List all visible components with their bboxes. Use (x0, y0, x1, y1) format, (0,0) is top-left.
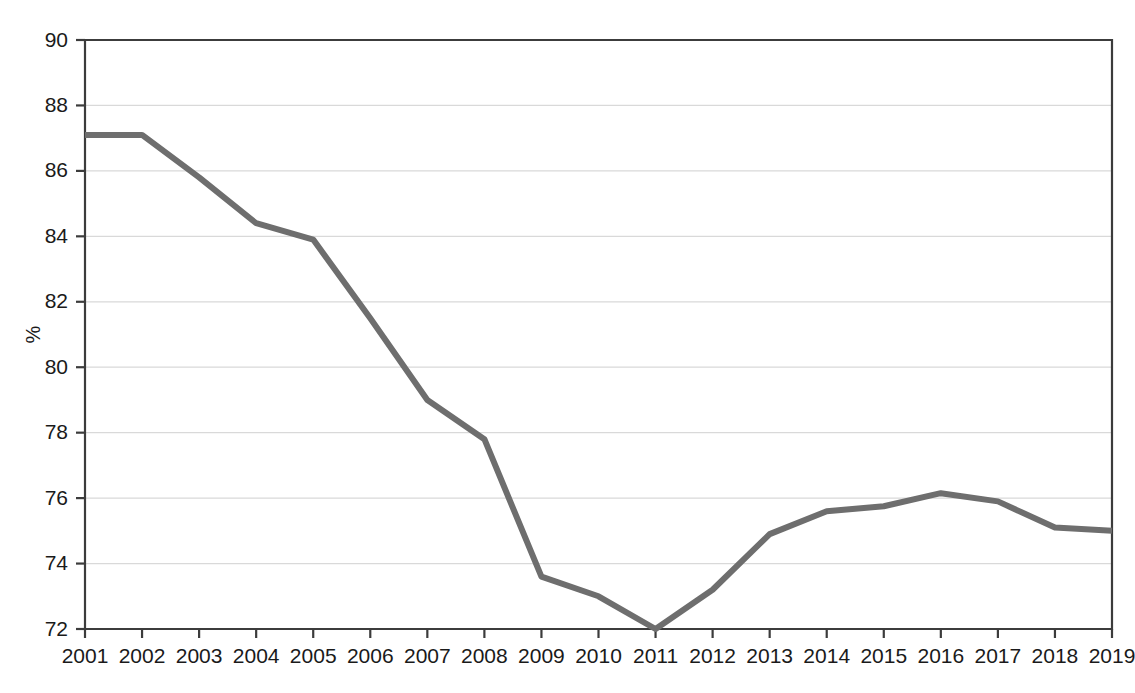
y-tick-label: 88 (45, 93, 68, 116)
y-tick-label: 90 (45, 28, 68, 51)
gridlines (85, 40, 1112, 564)
x-tick-label: 2008 (461, 644, 508, 667)
plot-frame (85, 40, 1112, 629)
y-tick-label: 78 (45, 420, 68, 443)
y-tick-label: 76 (45, 486, 68, 509)
x-tick-label: 2013 (746, 644, 793, 667)
y-tick-label: 80 (45, 355, 68, 378)
x-axis (85, 629, 1112, 638)
x-tick-label: 2007 (404, 644, 451, 667)
x-tick-label: 2006 (347, 644, 394, 667)
y-tick-label: 74 (45, 551, 69, 574)
x-tick-label: 2018 (1032, 644, 1079, 667)
chart-canvas: 72747678808284868890 2001200220032004200… (0, 0, 1135, 693)
x-tick-label: 2004 (233, 644, 280, 667)
y-tick-label: 82 (45, 289, 68, 312)
y-tick-label: 86 (45, 158, 68, 181)
x-tick-label: 2003 (176, 644, 223, 667)
data-series-line (85, 135, 1112, 629)
y-tick-label: 72 (45, 617, 68, 640)
x-tick-label: 2017 (975, 644, 1022, 667)
x-tick-label: 2016 (917, 644, 964, 667)
x-axis-tick-labels: 2001200220032004200520062007200820092010… (62, 644, 1135, 667)
x-tick-label: 2012 (689, 644, 736, 667)
series-path (85, 135, 1112, 629)
x-tick-label: 2019 (1089, 644, 1135, 667)
x-tick-label: 2010 (575, 644, 622, 667)
y-axis-title: % (22, 325, 44, 343)
x-tick-label: 2011 (633, 644, 678, 667)
x-tick-label: 2015 (860, 644, 907, 667)
y-tick-label: 84 (45, 224, 69, 247)
y-axis (76, 40, 1112, 629)
x-tick-label: 2005 (290, 644, 337, 667)
line-chart: 72747678808284868890 2001200220032004200… (0, 0, 1135, 693)
x-tick-label: 2014 (803, 644, 850, 667)
x-tick-label: 2009 (518, 644, 565, 667)
x-tick-label: 2001 (62, 644, 109, 667)
x-tick-label: 2002 (119, 644, 166, 667)
y-axis-tick-labels: 72747678808284868890 (45, 28, 69, 640)
